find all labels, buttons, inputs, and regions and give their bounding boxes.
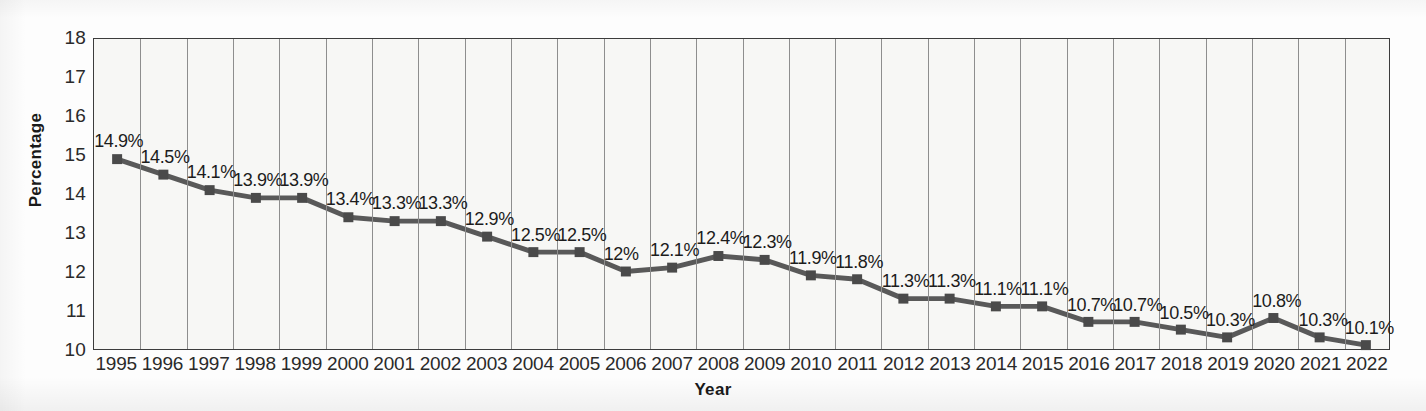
gridline-vertical	[511, 39, 512, 349]
data-point-label: 10.3%	[1299, 310, 1348, 331]
x-axis-tick-label: 1999	[281, 353, 322, 375]
gridline-vertical	[279, 39, 280, 349]
x-axis-tick-label: 2016	[1068, 353, 1109, 375]
x-axis-tick-label: 2017	[1114, 353, 1155, 375]
chart-page: Percentage 181716151413121110 14.9%14.5%…	[0, 0, 1426, 411]
x-axis-title: Year	[0, 380, 1426, 400]
x-axis-tick-label: 2021	[1300, 353, 1341, 375]
data-point-marker	[390, 216, 400, 226]
data-point-marker	[852, 274, 862, 284]
data-point-marker	[297, 193, 307, 203]
y-axis-tick-labels: 181716151413121110	[40, 38, 86, 350]
data-point-marker	[112, 154, 122, 164]
data-point-label: 11.1%	[974, 279, 1022, 300]
x-axis-tick-label: 2022	[1346, 353, 1387, 375]
data-point-marker	[1315, 332, 1325, 342]
x-axis-tick-label: 2004	[512, 353, 553, 375]
x-axis-tick-label: 2002	[420, 353, 461, 375]
data-point-label: 11.3%	[882, 271, 930, 292]
x-axis-tick-label: 1995	[95, 353, 136, 375]
x-axis-tick-labels: 1995199619971998199920002001200220032004…	[93, 353, 1390, 379]
data-point-marker	[991, 301, 1001, 311]
data-point-marker	[713, 251, 723, 261]
x-axis-tick-label: 1997	[188, 353, 229, 375]
x-axis-tick-label: 2008	[698, 353, 739, 375]
gridline-vertical	[140, 39, 141, 349]
data-point-label: 11.3%	[928, 271, 976, 292]
data-point-marker	[945, 294, 955, 304]
data-point-label: 14.9%	[94, 131, 143, 152]
data-point-marker	[251, 193, 261, 203]
data-point-label: 12.1%	[650, 240, 699, 261]
data-point-marker	[1176, 325, 1186, 335]
data-point-marker	[621, 267, 631, 277]
x-axis-tick-label: 2012	[883, 353, 924, 375]
gridline-vertical	[1345, 39, 1346, 349]
data-point-label: 13.4%	[326, 189, 375, 210]
y-axis-tick-label: 10	[42, 339, 86, 361]
data-point-label: 12.5%	[511, 225, 560, 246]
data-point-marker	[343, 212, 353, 222]
gridline-vertical	[233, 39, 234, 349]
data-point-label: 12.3%	[743, 232, 792, 253]
data-point-label: 13.3%	[372, 193, 421, 214]
data-point-marker	[1037, 301, 1047, 311]
x-axis-tick-label: 2020	[1253, 353, 1294, 375]
data-point-marker	[575, 247, 585, 257]
x-axis-tick-label: 2009	[744, 353, 785, 375]
gridline-vertical	[743, 39, 744, 349]
gridline-vertical	[696, 39, 697, 349]
gridline-vertical	[789, 39, 790, 349]
data-point-label: 12%	[604, 244, 639, 265]
data-point-label: 12.9%	[465, 209, 514, 230]
data-point-label: 12.4%	[696, 228, 745, 249]
x-axis-tick-label: 2006	[605, 353, 646, 375]
data-point-marker	[898, 294, 908, 304]
data-point-marker	[806, 270, 816, 280]
gridline-vertical	[974, 39, 975, 349]
data-point-label: 11.9%	[789, 248, 837, 269]
y-axis-tick-label: 13	[42, 222, 86, 244]
data-point-label: 10.5%	[1160, 303, 1209, 324]
data-point-label: 10.1%	[1345, 318, 1394, 339]
data-point-label: 11.1%	[1021, 279, 1069, 300]
data-point-label: 13.9%	[233, 170, 282, 191]
data-point-marker	[760, 255, 770, 265]
gridline-vertical	[1020, 39, 1021, 349]
data-point-marker	[528, 247, 538, 257]
data-point-label: 10.3%	[1206, 310, 1255, 331]
y-axis-tick-label: 16	[42, 105, 86, 127]
x-axis-tick-label: 2019	[1207, 353, 1248, 375]
x-axis-tick-label: 2005	[559, 353, 600, 375]
y-axis-tick-label: 17	[42, 66, 86, 88]
y-axis-tick-label: 15	[42, 144, 86, 166]
x-axis-tick-label: 2001	[373, 353, 414, 375]
x-axis-tick-label: 1996	[142, 353, 183, 375]
x-axis-tick-label: 2011	[837, 353, 877, 375]
data-point-marker	[1130, 317, 1140, 327]
x-axis-tick-label: 2000	[327, 353, 368, 375]
x-axis-tick-label: 2013	[929, 353, 970, 375]
data-point-marker	[1361, 340, 1371, 350]
x-axis-tick-label: 2007	[651, 353, 692, 375]
data-point-marker	[1083, 317, 1093, 327]
gridline-vertical	[650, 39, 651, 349]
y-axis-tick-label: 12	[42, 261, 86, 283]
data-point-marker	[158, 170, 168, 180]
y-axis-tick-label: 14	[42, 183, 86, 205]
gridline-vertical	[187, 39, 188, 349]
data-point-marker	[1222, 332, 1232, 342]
gridline-vertical	[928, 39, 929, 349]
x-axis-tick-label: 2014	[976, 353, 1017, 375]
data-point-marker	[205, 185, 215, 195]
gridline-vertical	[557, 39, 558, 349]
data-point-label: 11.8%	[835, 252, 883, 273]
data-point-marker	[482, 232, 492, 242]
gridline-vertical	[881, 39, 882, 349]
data-point-marker	[667, 263, 677, 273]
data-point-label: 13.3%	[418, 193, 467, 214]
gridline-vertical	[604, 39, 605, 349]
x-axis-tick-label: 1998	[234, 353, 275, 375]
data-point-label: 13.9%	[279, 170, 328, 191]
x-axis-tick-label: 2018	[1161, 353, 1202, 375]
